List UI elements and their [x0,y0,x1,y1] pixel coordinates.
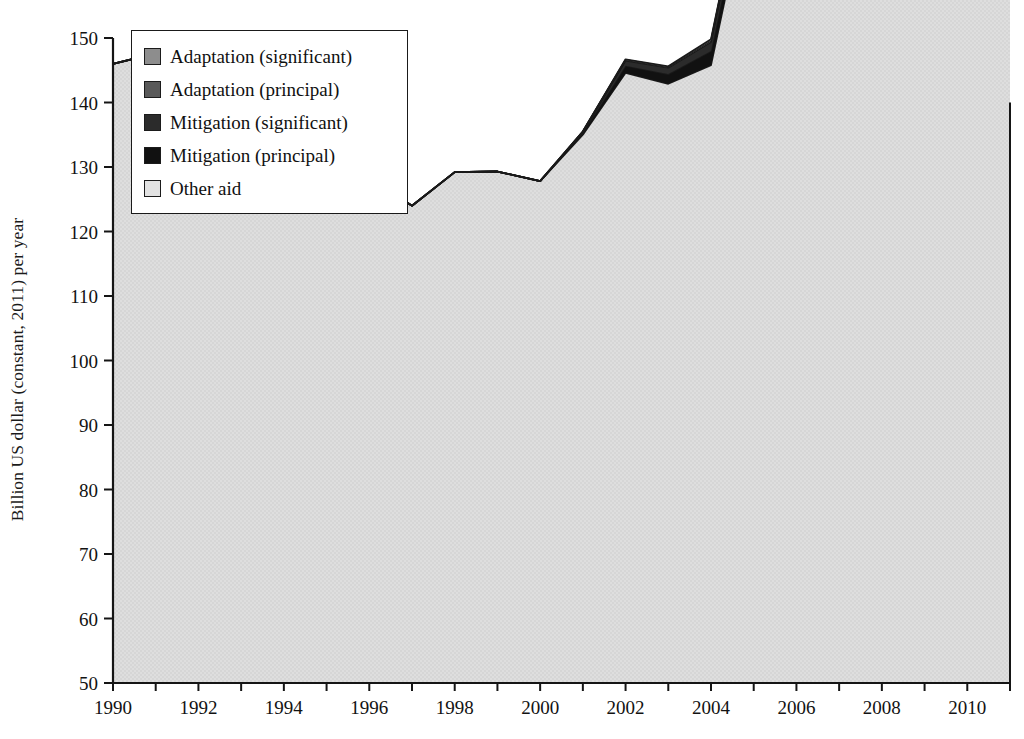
svg-text:100: 100 [70,351,99,372]
svg-text:2004: 2004 [692,697,731,718]
chart-legend: Adaptation (significant) Adaptation (pri… [131,30,408,214]
legend-item-adaptation-principal: Adaptation (principal) [144,73,407,106]
svg-text:130: 130 [70,157,99,178]
svg-text:1992: 1992 [179,697,217,718]
legend-item-mitigation-significant: Mitigation (significant) [144,106,407,139]
svg-text:2010: 2010 [948,697,986,718]
legend-swatch-icon [144,147,161,164]
svg-text:110: 110 [70,286,98,307]
chart-figure: 5060708090100110120130140150199019921994… [0,0,1024,739]
legend-label: Adaptation (principal) [170,80,339,99]
svg-text:150: 150 [70,28,99,49]
svg-text:2008: 2008 [863,697,901,718]
svg-text:1990: 1990 [94,697,132,718]
legend-swatch-icon [144,180,161,197]
svg-text:80: 80 [79,480,98,501]
legend-swatch-icon [144,48,161,65]
legend-label: Mitigation (significant) [170,113,348,132]
svg-text:2000: 2000 [521,697,559,718]
svg-text:90: 90 [79,415,98,436]
legend-label: Mitigation (principal) [170,146,335,165]
legend-swatch-icon [144,114,161,131]
svg-text:2006: 2006 [777,697,815,718]
legend-item-adaptation-significant: Adaptation (significant) [144,40,407,73]
legend-label: Adaptation (significant) [170,47,352,66]
legend-item-other-aid: Other aid [144,172,407,205]
svg-text:70: 70 [79,544,98,565]
svg-text:1998: 1998 [436,697,474,718]
legend-label: Other aid [170,179,241,198]
legend-item-mitigation-principal: Mitigation (principal) [144,139,407,172]
svg-text:120: 120 [70,222,99,243]
legend-swatch-icon [144,81,161,98]
svg-text:140: 140 [70,93,99,114]
svg-text:1994: 1994 [265,697,304,718]
svg-text:1996: 1996 [350,697,388,718]
svg-text:60: 60 [79,609,98,630]
svg-text:50: 50 [79,673,98,694]
svg-text:2002: 2002 [607,697,645,718]
